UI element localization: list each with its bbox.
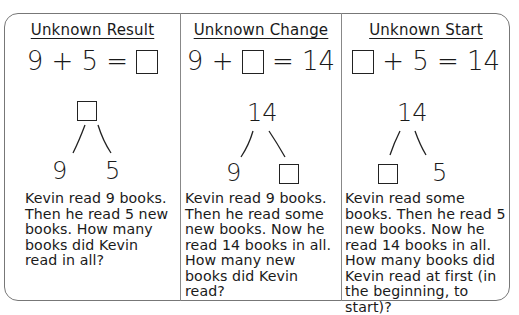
bond-whole: 14 xyxy=(247,101,278,125)
column-unknown-start: Unknown Start + 5 = 14 14 5 Kevin read s… xyxy=(342,13,510,301)
word-problem: Kevin read some books. Then he read 5 ne… xyxy=(345,191,506,315)
unknown-box xyxy=(279,164,299,184)
equation: 9 + 5 = xyxy=(5,46,180,76)
column-title: Unknown Start xyxy=(342,21,510,39)
column-unknown-change: Unknown Change 9 + = 14 14 9 Kevin read … xyxy=(181,13,341,301)
column-unknown-result: Unknown Result 9 + 5 = 9 5 Kevin read 9 … xyxy=(5,13,180,301)
equation: + 5 = 14 xyxy=(342,46,510,76)
number-bond: 14 5 xyxy=(342,101,510,191)
bond-part-left: 9 xyxy=(52,159,67,183)
unknown-box xyxy=(352,50,374,74)
unknown-box xyxy=(77,101,97,121)
unknown-box xyxy=(136,50,158,74)
unknown-box xyxy=(378,164,398,184)
bond-part-right: 5 xyxy=(432,161,447,185)
equation-right: + 5 = 14 xyxy=(382,46,500,76)
column-title: Unknown Change xyxy=(181,21,341,39)
equation-right: = 14 xyxy=(272,46,335,76)
word-problem: Kevin read 9 books. Then he read 5 new b… xyxy=(25,191,174,269)
bond-part-right: 5 xyxy=(105,159,120,183)
equation: 9 + = 14 xyxy=(181,46,341,76)
word-problem: Kevin read 9 books. Then he read some ne… xyxy=(185,191,335,300)
bond-part-left: 9 xyxy=(226,161,241,185)
column-title: Unknown Result xyxy=(5,21,180,39)
bond-whole: 14 xyxy=(397,101,428,125)
unknown-box xyxy=(242,50,264,74)
number-bond: 9 5 xyxy=(5,101,180,191)
number-bond: 14 9 xyxy=(181,101,341,191)
equation-left: 9 + xyxy=(187,46,234,76)
equation-left: 9 + 5 = xyxy=(27,46,128,76)
